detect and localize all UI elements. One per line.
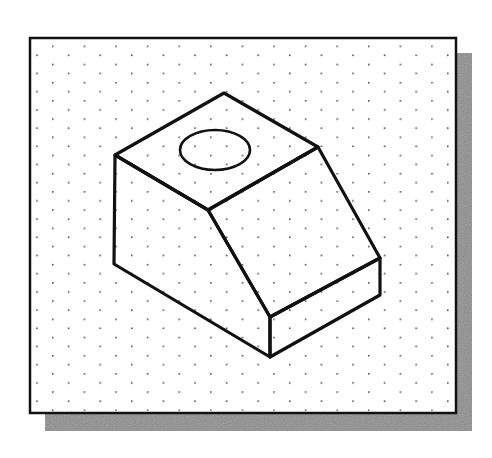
isometric-drawing-figure xyxy=(0,0,492,458)
drawing-canvas xyxy=(0,0,492,458)
isometric-dot-grid xyxy=(32,40,454,411)
